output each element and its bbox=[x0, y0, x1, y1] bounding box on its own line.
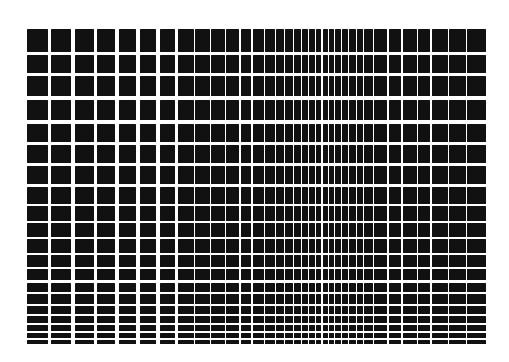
grid-cell bbox=[389, 283, 401, 292]
grid-cell bbox=[467, 166, 486, 184]
grid-cell bbox=[316, 206, 321, 221]
grid-cell bbox=[418, 187, 430, 204]
grid-cell bbox=[97, 145, 115, 163]
grid-cell bbox=[364, 145, 373, 163]
grid-cell bbox=[302, 283, 308, 292]
grid-cell bbox=[285, 187, 293, 204]
grid-cell bbox=[357, 145, 363, 163]
grid-cell bbox=[75, 325, 94, 331]
grid-cell bbox=[418, 325, 430, 331]
grid-cell bbox=[374, 166, 387, 184]
grid-cell bbox=[335, 333, 341, 338]
grid-cell bbox=[285, 255, 293, 267]
grid-cell bbox=[403, 255, 417, 267]
grid-cell bbox=[389, 269, 401, 280]
grid-cell bbox=[119, 55, 136, 73]
grid-cell bbox=[211, 145, 225, 163]
grid-cell bbox=[119, 206, 136, 221]
grid-cell bbox=[389, 223, 401, 237]
grid-cell bbox=[241, 269, 251, 280]
grid-cell bbox=[342, 206, 348, 221]
grid-cell bbox=[211, 187, 225, 204]
grid-cell bbox=[467, 124, 486, 142]
grid-cell bbox=[432, 166, 448, 184]
grid-cell bbox=[226, 145, 239, 163]
grid-cell bbox=[316, 145, 321, 163]
grid-cell bbox=[374, 124, 387, 142]
grid-cell bbox=[241, 223, 251, 237]
grid-cell bbox=[27, 76, 48, 96]
grid-cell bbox=[276, 294, 284, 304]
grid-cell bbox=[342, 187, 348, 204]
grid-cell bbox=[195, 76, 210, 96]
grid-cell bbox=[140, 340, 156, 344]
grid-cell bbox=[160, 223, 175, 237]
grid-cell bbox=[294, 239, 301, 253]
grid-cell bbox=[51, 223, 71, 237]
grid-cell bbox=[97, 340, 115, 344]
grid-cell bbox=[75, 316, 94, 323]
grid-cell bbox=[265, 145, 275, 163]
grid-cell bbox=[253, 100, 264, 120]
grid-cell bbox=[389, 145, 401, 163]
grid-cell bbox=[449, 269, 466, 280]
grid-cell bbox=[97, 239, 115, 253]
grid-cell bbox=[316, 239, 321, 253]
grid-cell bbox=[357, 325, 363, 331]
grid-cell bbox=[342, 124, 348, 142]
grid-cell bbox=[357, 124, 363, 142]
grid-cell bbox=[226, 269, 239, 280]
grid-cell bbox=[276, 255, 284, 267]
grid-cell bbox=[75, 340, 94, 344]
grid-cell bbox=[276, 269, 284, 280]
grid-cell bbox=[389, 166, 401, 184]
grid-cell bbox=[323, 55, 328, 73]
grid-cell bbox=[329, 166, 334, 184]
grid-cell bbox=[449, 316, 466, 323]
grid-cell bbox=[265, 306, 275, 314]
grid-cell bbox=[253, 340, 264, 344]
grid-cell bbox=[342, 29, 348, 52]
grid-cell bbox=[432, 124, 448, 142]
grid-cell bbox=[403, 239, 417, 253]
grid-cell bbox=[467, 239, 486, 253]
grid-cell bbox=[294, 325, 301, 331]
grid-cell bbox=[211, 223, 225, 237]
grid-cell bbox=[357, 166, 363, 184]
grid-cell bbox=[342, 340, 348, 344]
grid-cell bbox=[211, 100, 225, 120]
grid-cell bbox=[432, 145, 448, 163]
grid-cell bbox=[276, 76, 284, 96]
grid-cell bbox=[285, 269, 293, 280]
grid-cell bbox=[178, 187, 194, 204]
grid-cell bbox=[160, 29, 175, 52]
grid-cell bbox=[418, 255, 430, 267]
grid-cell bbox=[97, 283, 115, 292]
grid-cell bbox=[97, 294, 115, 304]
grid-cell bbox=[211, 283, 225, 292]
grid-cell bbox=[195, 187, 210, 204]
grid-cell bbox=[418, 269, 430, 280]
grid-cell bbox=[418, 316, 430, 323]
grid-cell bbox=[323, 294, 328, 304]
grid-cell bbox=[119, 316, 136, 323]
grid-cell bbox=[27, 187, 48, 204]
grid-cell bbox=[294, 76, 301, 96]
grid-cell bbox=[241, 306, 251, 314]
grid-cell bbox=[195, 255, 210, 267]
grid-cell bbox=[241, 100, 251, 120]
grid-cell bbox=[418, 340, 430, 344]
grid-cell bbox=[285, 325, 293, 331]
grid-cell bbox=[119, 255, 136, 267]
grid-cell bbox=[178, 269, 194, 280]
grid-cell bbox=[211, 340, 225, 344]
grid-cell bbox=[75, 55, 94, 73]
grid-cell bbox=[389, 333, 401, 338]
grid-cell bbox=[342, 294, 348, 304]
grid-cell bbox=[140, 29, 156, 52]
grid-cell bbox=[349, 283, 356, 292]
grid-cell bbox=[75, 29, 94, 52]
grid-cell bbox=[432, 294, 448, 304]
grid-cell bbox=[294, 294, 301, 304]
grid-cell bbox=[374, 325, 387, 331]
